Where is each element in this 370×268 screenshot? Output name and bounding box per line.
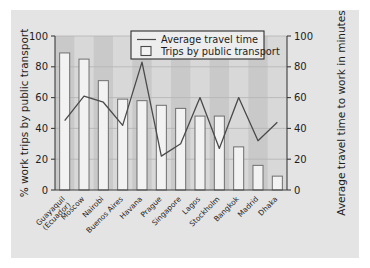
legend-bar-swatch xyxy=(141,47,151,56)
left-tick-label: 40 xyxy=(35,123,48,134)
left-axis-title: % work trips by public transport xyxy=(18,29,30,198)
bar xyxy=(195,116,205,190)
bar xyxy=(176,108,186,190)
bar xyxy=(156,105,166,190)
right-axis-title: Average travel time to work in minutes xyxy=(335,10,347,215)
bar xyxy=(79,59,89,190)
bar xyxy=(137,101,147,190)
left-tick-label: 60 xyxy=(35,92,48,103)
x-axis-category-label: Dhaka xyxy=(256,195,279,218)
right-tick-label: 20 xyxy=(294,154,307,165)
category-label-line: Madrid xyxy=(236,194,261,219)
legend-line-label: Average travel time xyxy=(161,34,258,45)
left-tick-label: 20 xyxy=(35,154,48,165)
right-tick-label: 80 xyxy=(294,61,307,72)
figure-container: 020406080100 020406080100 Guayaquil(Ecua… xyxy=(0,0,370,268)
dual-axis-chart: 020406080100 020406080100 Guayaquil(Ecua… xyxy=(0,0,370,268)
left-axis-ticks: 020406080100 xyxy=(29,31,55,196)
legend-bar-label: Trips by public transport xyxy=(160,46,280,57)
left-tick-label: 100 xyxy=(29,31,48,42)
chart-plot-wrapper: 020406080100 020406080100 Guayaquil(Ecua… xyxy=(0,0,370,268)
bar xyxy=(253,165,263,190)
bar xyxy=(214,116,224,190)
right-tick-label: 100 xyxy=(294,31,313,42)
right-tick-label: 40 xyxy=(294,123,307,134)
x-axis-category-label: Madrid xyxy=(236,194,261,219)
right-tick-label: 60 xyxy=(294,92,307,103)
left-tick-label: 80 xyxy=(35,61,48,72)
right-tick-label: 0 xyxy=(294,185,300,196)
category-label-line: Dhaka xyxy=(256,195,279,218)
bar xyxy=(60,53,70,190)
x-axis-category-labels: Guayaquil(Ecuador)MoscowNairobiBuenos Ai… xyxy=(34,194,279,235)
left-tick-label: 0 xyxy=(42,185,48,196)
bar xyxy=(272,176,282,190)
bar xyxy=(98,81,108,190)
bar xyxy=(234,147,244,190)
chart-legend: Average travel time Trips by public tran… xyxy=(131,31,280,59)
right-axis-ticks: 020406080100 xyxy=(287,31,313,196)
